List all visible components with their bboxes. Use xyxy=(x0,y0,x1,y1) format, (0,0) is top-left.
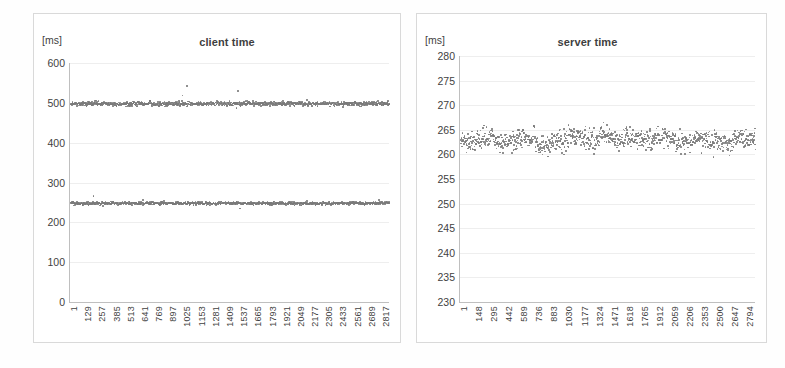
data-point xyxy=(664,137,666,139)
data-point xyxy=(573,131,575,133)
data-point xyxy=(679,128,681,130)
data-point xyxy=(616,134,618,136)
data-point xyxy=(606,141,608,143)
x-axis-tick-label: 295 xyxy=(490,306,499,322)
data-point xyxy=(193,204,195,206)
data-point xyxy=(464,135,466,137)
x-axis-tick-label: 1912 xyxy=(656,306,665,327)
data-point xyxy=(593,153,595,155)
data-point xyxy=(570,142,572,144)
gridline xyxy=(460,130,755,131)
data-point xyxy=(689,152,691,154)
x-axis-tick-label: 1 xyxy=(460,306,469,311)
data-point xyxy=(579,139,581,141)
data-point xyxy=(501,137,503,139)
data-point xyxy=(567,142,569,144)
data-point xyxy=(588,148,590,150)
data-point xyxy=(580,144,582,146)
data-point xyxy=(484,135,486,137)
data-point xyxy=(667,132,669,134)
data-point xyxy=(563,128,565,130)
data-point xyxy=(651,148,653,150)
data-point xyxy=(707,141,709,143)
data-point xyxy=(630,146,632,148)
data-point xyxy=(588,132,590,134)
data-point xyxy=(522,129,524,131)
data-point xyxy=(511,152,513,154)
x-axis-tick-label: 897 xyxy=(169,306,178,322)
data-point xyxy=(705,135,707,137)
data-point xyxy=(601,134,603,136)
data-point xyxy=(589,127,591,129)
data-point xyxy=(742,142,744,144)
x-axis-tick-label: 1025 xyxy=(183,306,192,327)
data-point xyxy=(603,131,605,133)
data-point xyxy=(481,147,483,149)
gridline xyxy=(460,253,755,254)
data-point xyxy=(636,142,638,144)
data-point xyxy=(733,146,735,148)
data-point xyxy=(661,135,663,137)
data-point xyxy=(743,133,745,135)
data-point xyxy=(702,145,704,147)
data-point xyxy=(582,131,584,133)
x-axis-tick-label: 1471 xyxy=(611,306,620,327)
data-point xyxy=(592,131,594,133)
y-axis-tick-label: 230 xyxy=(437,296,455,308)
x-axis-tick-label: 1537 xyxy=(240,306,249,327)
data-point xyxy=(240,105,242,107)
data-point xyxy=(566,131,568,133)
data-point xyxy=(694,142,696,144)
x-axis-tick-label: 1665 xyxy=(254,306,263,327)
data-point xyxy=(512,131,514,133)
data-point xyxy=(599,141,601,143)
data-point xyxy=(643,145,645,147)
data-point xyxy=(487,144,489,146)
y-axis-tick-label: 240 xyxy=(437,247,455,259)
data-point xyxy=(475,143,477,145)
data-point xyxy=(713,156,715,158)
data-point xyxy=(727,144,729,146)
data-point xyxy=(631,138,633,140)
data-point xyxy=(466,140,468,142)
data-point xyxy=(467,148,469,150)
x-axis-tick-label: 2647 xyxy=(731,306,740,327)
data-point xyxy=(722,150,724,152)
data-point xyxy=(478,134,480,136)
data-point xyxy=(751,133,753,135)
data-point xyxy=(525,138,527,140)
data-point xyxy=(660,142,662,144)
data-point xyxy=(563,144,565,146)
data-point xyxy=(571,130,573,132)
data-point xyxy=(568,146,570,148)
data-point xyxy=(461,146,463,148)
data-point xyxy=(289,105,291,107)
data-point xyxy=(551,137,553,139)
x-axis-tick-label: 2561 xyxy=(354,306,363,327)
y-axis-tick-label: 400 xyxy=(47,137,65,149)
client-plot-area: 0100200300400500600112925738551364176989… xyxy=(69,63,389,303)
data-point xyxy=(479,138,481,140)
data-point xyxy=(637,148,639,150)
data-point xyxy=(460,143,462,145)
data-point xyxy=(639,138,641,140)
data-point xyxy=(626,129,628,131)
data-point xyxy=(667,137,669,139)
data-point xyxy=(560,140,562,142)
data-point xyxy=(629,126,631,128)
data-point xyxy=(483,138,485,140)
data-point xyxy=(661,139,663,141)
gridline xyxy=(460,204,755,205)
data-point xyxy=(500,134,502,136)
data-point xyxy=(585,149,587,151)
x-axis-tick-label: 2177 xyxy=(311,306,320,327)
data-point xyxy=(620,139,622,141)
data-point xyxy=(646,131,648,133)
data-point xyxy=(233,105,235,107)
data-point xyxy=(518,137,520,139)
x-axis-tick-label: 1409 xyxy=(226,306,235,327)
data-point xyxy=(253,105,255,107)
data-point xyxy=(556,137,558,139)
data-point xyxy=(755,149,757,151)
data-point xyxy=(499,152,501,154)
